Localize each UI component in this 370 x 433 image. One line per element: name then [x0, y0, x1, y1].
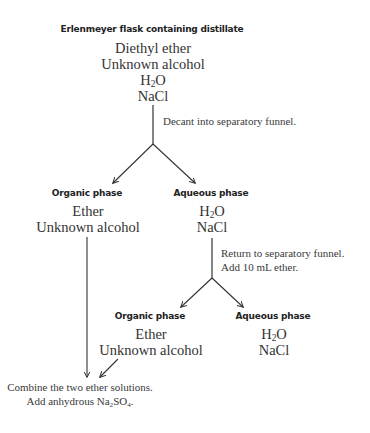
organic-phase-1-alcohol: Unknown alcohol: [36, 219, 140, 235]
arrow-organic-2-to-combine: [100, 359, 118, 377]
organic-phase-1-title: Organic phase: [52, 188, 122, 198]
final-instruction-line1: Combine the two ether solutions.: [7, 381, 153, 394]
start-component-water: H2O: [140, 72, 166, 88]
arrow-to-aqueous-2: [212, 278, 243, 307]
arrow-to-organic-1: [113, 144, 153, 183]
aqueous-phase-2-nacl: NaCl: [259, 342, 290, 358]
start-component-ether: Diethyl ether: [115, 40, 191, 56]
aqueous-phase-1-title: Aqueous phase: [174, 188, 249, 198]
aqueous-phase-1-water: H2O: [199, 203, 225, 219]
start-component-nacl: NaCl: [138, 88, 169, 104]
aqueous-phase-2-water: H2O: [261, 326, 287, 342]
step1-instruction: Decant into separatory funnel.: [163, 115, 296, 128]
organic-phase-2-alcohol: Unknown alcohol: [99, 342, 203, 358]
step2-instruction-line1: Return to separatory funnel.: [221, 247, 344, 260]
arrow-to-organic-2: [181, 278, 212, 307]
aqueous-phase-2-title: Aqueous phase: [236, 311, 311, 321]
organic-phase-1-ether: Ether: [72, 203, 103, 219]
organic-phase-2-ether: Ether: [135, 326, 166, 342]
start-component-alcohol: Unknown alcohol: [101, 56, 205, 72]
final-instruction-line2: Add anhydrous Na2SO4.: [26, 395, 133, 408]
step2-instruction-line2: Add 10 mL ether.: [221, 261, 298, 274]
start-title: Erlenmeyer flask containing distillate: [61, 24, 244, 34]
organic-phase-2-title: Organic phase: [115, 311, 185, 321]
aqueous-phase-1-nacl: NaCl: [197, 219, 228, 235]
arrow-to-aqueous-1: [153, 144, 195, 183]
